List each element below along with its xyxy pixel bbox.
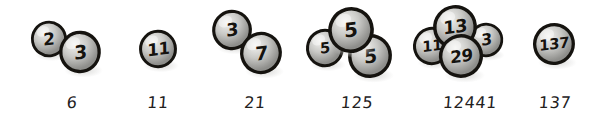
group-137: 137137 (520, 0, 590, 117)
ball-cluster: 23 (22, 0, 122, 86)
prime-ball-value: 7 (254, 43, 267, 64)
product-label: 21 (204, 95, 305, 111)
group-6: 236 (22, 0, 122, 117)
prime-ball: 7 (239, 31, 283, 75)
prime-ball-value: 3 (226, 20, 238, 40)
prime-ball-value: 137 (539, 35, 569, 54)
prime-ball-value: 3 (73, 42, 86, 63)
ball-cluster: 11 (112, 0, 204, 86)
ball-cluster: 555 (305, 0, 409, 86)
group-21: 3721 (205, 0, 305, 117)
prime-ball: 5 (327, 6, 375, 54)
prime-ball-value: 5 (344, 19, 358, 41)
product-label: 6 (21, 95, 122, 111)
prime-ball: 29 (438, 33, 484, 79)
group-11: 1111 (112, 0, 204, 117)
product-label: 125 (304, 95, 409, 111)
prime-ball-value: 2 (43, 30, 55, 48)
prime-ball-value: 11 (146, 39, 169, 59)
product-label: 137 (519, 95, 590, 111)
group-12441: 113132912441 (412, 0, 528, 117)
ball-cluster: 37 (205, 0, 305, 86)
prime-ball: 137 (532, 22, 576, 66)
group-125: 555125 (305, 0, 409, 117)
product-label: 11 (111, 95, 204, 111)
product-label: 12441 (411, 95, 528, 111)
prime-factorization-illustration: 23611113721555125113132912441137137 (0, 0, 594, 117)
ball-cluster: 1131329 (412, 0, 528, 86)
prime-ball: 3 (58, 30, 102, 74)
prime-ball-value: 29 (449, 46, 472, 66)
ball-cluster: 137 (520, 0, 590, 86)
prime-ball: 11 (138, 29, 178, 69)
